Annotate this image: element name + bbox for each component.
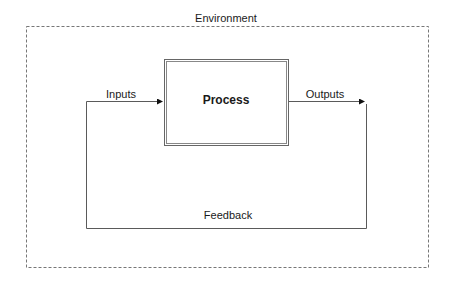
feedback-label: Feedback: [204, 209, 252, 221]
system-diagram: [0, 0, 451, 283]
outputs-label: Outputs: [306, 88, 345, 100]
process-label: Process: [203, 93, 250, 107]
inputs-label: Inputs: [106, 88, 136, 100]
environment-label: Environment: [195, 12, 257, 24]
